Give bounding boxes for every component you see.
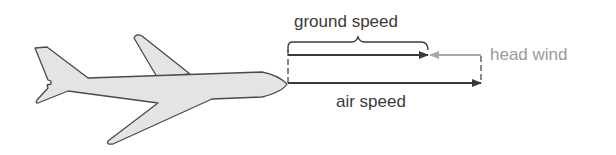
upper-wing xyxy=(134,35,190,77)
ground-speed-brace xyxy=(288,37,428,52)
airplane-icon xyxy=(35,35,287,144)
air-speed-label: air speed xyxy=(336,93,406,110)
head-wind-label: head wind xyxy=(490,46,568,63)
ground-speed-label: ground speed xyxy=(294,13,398,30)
